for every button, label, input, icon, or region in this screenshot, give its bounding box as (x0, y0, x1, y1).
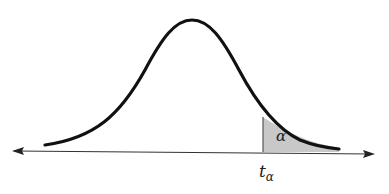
density-curve (45, 20, 339, 149)
critical-value-label: tα (259, 161, 274, 184)
t-distribution-diagram: α tα (0, 0, 389, 194)
alpha-label: α (276, 127, 286, 145)
critical-value-subscript: α (266, 170, 274, 184)
